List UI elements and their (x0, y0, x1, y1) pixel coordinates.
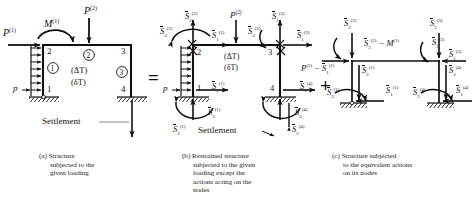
panel-b-caption-line4: actions acting on the (182, 178, 306, 187)
panel-a-label-p-dist: p (13, 84, 18, 93)
panel-a-member-1: 1 (50, 65, 54, 73)
panel-b-settlement-label: Settlement (198, 126, 237, 135)
panel-a-member-3: 3 (119, 69, 123, 77)
panel-c-force-s1-3: S1(3) (449, 50, 461, 62)
panel-b-caption-line3: loading except the (182, 169, 306, 178)
panel-c-force-s3-1: S3(1) (327, 88, 339, 100)
panel-a-caption-line3: given loading (39, 169, 149, 178)
panel-a-node-2: 2 (47, 47, 52, 56)
panel-c-caption-line3: on its nodes (332, 169, 468, 178)
panel-b-label-p2: P(2) (230, 10, 242, 20)
panel-c-force-s2-2: S2(2) (344, 19, 356, 31)
panel-a-delta-t: (ΔT) (71, 66, 87, 75)
panel-a-label-p1: P(1) (3, 28, 16, 38)
panel-b-delta-t: (ΔT) (224, 53, 239, 61)
panel-b-node-3: 3 (268, 48, 272, 57)
panel-b-force-s3-4: S3(4) (295, 108, 307, 120)
panel-c-caption: (c) Structure subjected to the equivalen… (332, 152, 468, 178)
panel-b-node-1: 1 (197, 84, 201, 93)
panel-b-force-s2-3: S2(3) (272, 12, 284, 24)
panel-a-distributed-load (22, 46, 41, 96)
equals-symbol: = (148, 68, 159, 87)
panel-c-force-s3-3: S3(3) (432, 38, 444, 50)
panel-b-node-4: 4 (270, 84, 274, 93)
panel-c-expr-moment: S3(2) − M(1) (364, 39, 399, 51)
panel-a-node-4: 4 (121, 85, 126, 94)
panel-c-force-s3-4: S3(4) (413, 88, 425, 100)
panel-a-small-delta-t: (δT) (71, 78, 86, 87)
panel-a-caption: (a) Structure subjected to the given loa… (39, 152, 149, 178)
panel-a-settlement-label: Settlement (42, 117, 81, 126)
panel-b-force-s1-4: S1(4) (300, 82, 312, 94)
panel-c-expr-horizontal: P(1) − S1(2) (301, 64, 334, 76)
panel-a-settlement-arrow (99, 100, 132, 137)
panel-c-caption-line1: (c) Structure subjected (332, 152, 396, 160)
panel-a-node-1: 1 (47, 85, 52, 94)
panel-a-caption-line1: (a) Structure (39, 152, 75, 160)
panel-b-force-s1-1: S1(1) (212, 82, 224, 94)
panel-b-settlement-leader (262, 131, 274, 136)
panel-b-label-p-dist: p (163, 84, 168, 93)
panel-a-label-m1: M(1) (44, 19, 59, 29)
panel-b-force-s2-4: S2(4) (292, 125, 304, 137)
panel-b-caption: (b) Restrained structure subjected to th… (182, 152, 306, 195)
panel-c-force-s2-1: S2(1) (362, 66, 374, 78)
panel-b-force-s2-1: S2(1) (173, 125, 185, 137)
panel-a-node-3: 3 (121, 47, 126, 56)
panel-c-force-s2-4: S2(4) (449, 66, 461, 78)
panel-b-force-s2-2: S2(2) (185, 12, 197, 24)
panel-b-caption-line5: nodes (182, 186, 306, 195)
panel-b-small-delta-t: (δT) (224, 64, 238, 72)
panel-c-caption-line2: to the equivalent actions (332, 161, 468, 170)
figure-root: = + P(1) M(1) P(2) p 2 1 3 4 1 2 3 (ΔT) … (0, 0, 473, 215)
panel-b-distributed-load (172, 46, 191, 96)
panel-b-node-2: 2 (197, 48, 201, 57)
panel-c-force-s1-1: S1(1) (386, 86, 398, 98)
panel-b-force-s3-3: S3(3) (248, 27, 260, 39)
panel-b-force-s1-3: S1(3) (297, 31, 309, 43)
panel-c-force-s1-4: S1(4) (456, 86, 468, 98)
panel-b-force-s3-2: S3(2) (160, 27, 172, 39)
panel-a-moment-m1-arc (38, 30, 73, 42)
panel-a-label-p2: P(2) (84, 6, 97, 16)
panel-b-caption-line1: (b) Restrained structure (182, 152, 249, 160)
panel-c-node2-forces (322, 33, 352, 61)
panel-c-node1-forces (335, 65, 384, 101)
panel-b-force-s1-2: S1(2) (212, 31, 224, 43)
panel-a-caption-line2: subjected to the (39, 161, 149, 170)
panel-a-member-2: 2 (86, 52, 90, 60)
panel-c-force-s2-3: S2(3) (430, 19, 442, 31)
panel-b-force-s3-1: S3(1) (208, 108, 220, 120)
panel-b-caption-line2: subjected to the given (182, 161, 306, 170)
